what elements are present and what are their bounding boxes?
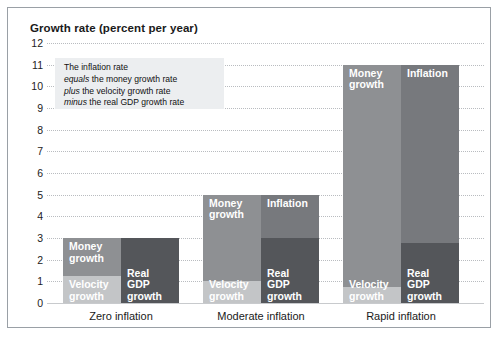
bar-segment-label: Real GDP: [127, 268, 174, 291]
bar-segment-money-growth[interactable]: Moneygrowth: [203, 195, 261, 282]
y-axis-labels: 1211109876543210: [18, 43, 43, 303]
bar-left-0[interactable]: MoneygrowthVelocitygrowth: [63, 238, 121, 303]
bar-segment-label: Real GDP: [267, 268, 314, 291]
y-axis-tick-label: 2: [21, 254, 43, 266]
bar-segment-label: growth: [209, 209, 256, 221]
annotation-line-4: minus the real GDP growth rate: [64, 97, 218, 109]
bar-left-2[interactable]: MoneygrowthVelocitygrowth: [343, 65, 401, 303]
y-axis-tick-label: 11: [21, 59, 43, 71]
bar-segment-label: growth: [127, 291, 174, 303]
bar-segment-label: growth: [267, 291, 314, 303]
y-axis-tick-label: 10: [21, 80, 43, 92]
bar-segment-label: Inflation: [407, 68, 454, 80]
y-axis-tick-label: 12: [21, 37, 43, 49]
annotation-box: The inflation rate equals the money grow…: [55, 58, 224, 109]
bar-segment-label: Money: [69, 241, 116, 253]
y-axis-tick-label: 1: [21, 275, 43, 287]
bar-segment-real-gdp-growth[interactable]: Real GDPgrowth: [121, 238, 179, 303]
bar-segment-inflation[interactable]: Inflation: [261, 195, 319, 238]
bar-left-1[interactable]: MoneygrowthVelocitygrowth: [203, 195, 261, 303]
y-axis-tick-label: 5: [21, 189, 43, 201]
x-axis-category-label: Zero inflation: [63, 310, 179, 322]
bar-right-0[interactable]: Real GDPgrowth: [121, 238, 179, 303]
annotation-line-1: The inflation rate: [64, 62, 218, 74]
bar-segment-label: Inflation: [267, 198, 314, 210]
bar-segment-label: growth: [349, 79, 396, 91]
y-axis-tick-label: 8: [21, 124, 43, 136]
bar-segment-label: growth: [209, 291, 256, 303]
bar-right-1[interactable]: InflationReal GDPgrowth: [261, 195, 319, 303]
y-axis-tick-label: 4: [21, 210, 43, 222]
bar-segment-label: Velocity: [69, 279, 116, 291]
bar-segment-velocity-growth[interactable]: Velocitygrowth: [203, 281, 261, 303]
annotation-line-2: equals the money growth rate: [64, 74, 218, 86]
chart-frame: Growth rate (percent per year) 121110987…: [7, 7, 491, 328]
bar-segment-real-gdp-growth[interactable]: Real GDPgrowth: [261, 238, 319, 303]
bar-segment-label: Real GDP: [407, 268, 454, 291]
y-axis-tick-label: 6: [21, 167, 43, 179]
bar-segment-money-growth[interactable]: Moneygrowth: [343, 65, 401, 287]
bar-segment-label: growth: [407, 291, 454, 303]
bar-segment-velocity-growth[interactable]: Velocitygrowth: [63, 276, 121, 303]
bar-segment-label: Velocity: [349, 279, 396, 291]
bar-segment-label: growth: [69, 253, 116, 265]
y-axis-tick-label: 0: [21, 297, 43, 309]
bar-segment-inflation[interactable]: Inflation: [401, 65, 459, 244]
x-axis-category-label: Rapid inflation: [343, 310, 459, 322]
x-axis-baseline: [47, 303, 484, 304]
y-axis-tick-label: 9: [21, 102, 43, 114]
bar-right-2[interactable]: InflationReal GDPgrowth: [401, 65, 459, 303]
x-axis-category-label: Moderate inflation: [203, 310, 319, 322]
chart-title: Growth rate (percent per year): [30, 22, 198, 34]
annotation-line-3: plus the velocity growth rate: [64, 86, 218, 98]
bar-segment-label: Velocity: [209, 279, 256, 291]
y-axis-tick-label: 7: [21, 145, 43, 157]
bar-segment-velocity-growth[interactable]: Velocitygrowth: [343, 287, 401, 303]
bar-segment-money-growth[interactable]: Moneygrowth: [63, 238, 121, 276]
y-axis-tick-label: 3: [21, 232, 43, 244]
bar-segment-label: growth: [69, 291, 116, 303]
bar-segment-label: growth: [349, 291, 396, 303]
gridline: [47, 43, 484, 44]
bar-segment-real-gdp-growth[interactable]: Real GDPgrowth: [401, 243, 459, 303]
